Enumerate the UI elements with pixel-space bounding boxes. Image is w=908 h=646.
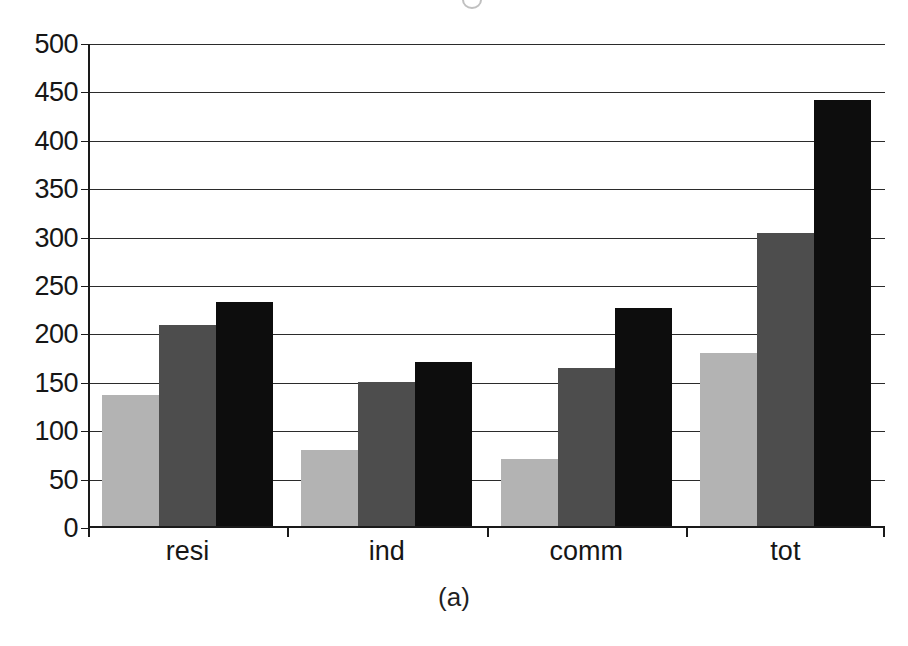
y-tick-label: 500 [34, 31, 78, 58]
axis-lines [88, 44, 885, 528]
x-tick-label: resi [166, 538, 210, 565]
y-axis-tick-labels: 050100150200250300350400450500 [0, 44, 78, 528]
x-tick-label: ind [369, 538, 405, 565]
y-tick-label: 400 [34, 127, 78, 154]
y-tick-label: 250 [34, 273, 78, 300]
y-tick-label: 200 [34, 321, 78, 348]
x-tick-mark [883, 528, 885, 537]
y-tick-mark [81, 286, 88, 287]
y-tick-label: 350 [34, 176, 78, 203]
x-tick-label: comm [549, 538, 623, 565]
y-tick-mark [81, 528, 88, 529]
y-tick-label: 150 [34, 369, 78, 396]
y-tick-mark [81, 92, 88, 93]
y-tick-mark [81, 334, 88, 335]
x-tick-label: tot [770, 538, 800, 565]
y-tick-mark [81, 141, 88, 142]
x-tick-mark [287, 528, 289, 537]
plot-area [88, 44, 885, 528]
y-tick-mark [81, 189, 88, 190]
x-tick-mark [88, 528, 90, 537]
y-tick-mark [81, 383, 88, 384]
scan-artifact-glyph [462, 0, 482, 9]
x-tick-mark [686, 528, 688, 537]
y-tick-label: 50 [49, 466, 78, 493]
y-tick-label: 300 [34, 224, 78, 251]
y-tick-label: 100 [34, 418, 78, 445]
figure-caption: (a) [0, 582, 908, 613]
x-tick-mark [487, 528, 489, 537]
figure-container: 050100150200250300350400450500 resiindco… [0, 0, 908, 646]
y-tick-mark [81, 480, 88, 481]
y-tick-label: 0 [63, 515, 78, 542]
y-tick-mark [81, 431, 88, 432]
y-tick-label: 450 [34, 79, 78, 106]
y-tick-mark [81, 44, 88, 45]
y-tick-mark [81, 238, 88, 239]
